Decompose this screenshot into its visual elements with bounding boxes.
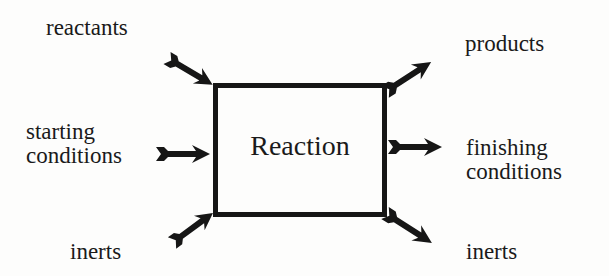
inerts-in-label: inerts [70,240,121,264]
inerts-in-arrow-icon [167,206,219,251]
reaction-box: Reaction [213,83,387,217]
finishing-conditions-label-line2: conditions [466,160,562,184]
finishing-conditions-label-line1: finishing [466,136,548,160]
reaction-label: Reaction [250,130,350,162]
reactants-arrow-icon [162,50,217,92]
products-arrow-icon [380,54,436,99]
starting-conditions-label-line2: conditions [26,144,122,168]
starting-conditions-label-line1: starting [26,120,95,144]
starting-conditions-arrow-icon [156,145,210,163]
reactants-label: reactants [46,16,128,40]
products-label: products [465,32,544,56]
finishing-conditions-arrow-icon [388,138,442,156]
inerts-out-label: inerts [466,240,517,264]
inerts-out-arrow-icon [380,205,437,250]
reaction-diagram: Reaction reactants starting conditions i… [0,0,609,276]
